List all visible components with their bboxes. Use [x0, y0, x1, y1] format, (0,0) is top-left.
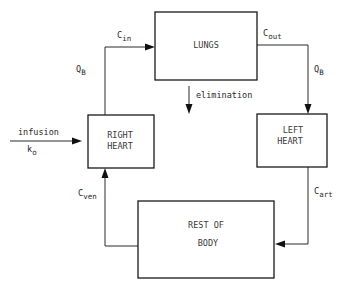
arrowhead-into-left-heart: [305, 104, 312, 114]
circulation-diagram: LUNGS RIGHT HEART LEFT HEART REST OF BOD…: [0, 0, 344, 287]
c-art-label: Cart: [314, 186, 333, 199]
infusion-label: infusion: [18, 127, 59, 137]
flow-right-heart-to-lungs: [105, 47, 150, 115]
k0-label: ko: [27, 144, 37, 157]
right-heart-label-line2: HEART: [107, 141, 133, 151]
c-ven-label: Cven: [78, 188, 97, 201]
lungs-label: LUNGS: [193, 40, 219, 50]
flow-left-heart-to-body: [280, 167, 308, 244]
qb-left-label: QB: [76, 64, 86, 77]
infusion-arrowhead: [72, 138, 82, 145]
c-out-label: Cout: [263, 28, 282, 41]
arrowhead-into-right-heart: [102, 168, 109, 178]
qb-right-label: QB: [314, 64, 324, 77]
flow-body-to-right-heart: [105, 173, 138, 246]
arrowhead-into-body: [275, 241, 285, 248]
flow-lungs-to-left-heart: [257, 45, 308, 109]
elimination-label: elimination: [196, 90, 252, 100]
rest-of-body-label-line2: BODY: [198, 238, 218, 248]
elimination-arrowhead: [186, 104, 193, 114]
left-heart-label-line1: LEFT: [283, 125, 303, 135]
left-heart-label-line2: HEART: [277, 136, 303, 146]
c-in-label: Cin: [117, 30, 131, 43]
rest-of-body-label-line1: REST OF: [188, 220, 224, 230]
arrowhead-into-lungs: [145, 44, 155, 51]
right-heart-label-line1: RIGHT: [107, 130, 133, 140]
